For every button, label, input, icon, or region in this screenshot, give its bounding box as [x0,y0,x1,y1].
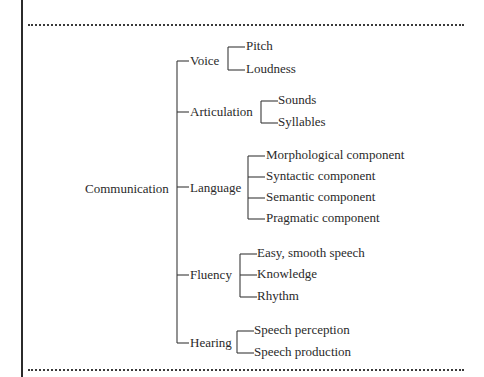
root-node-communication: Communication [85,182,169,196]
leaf-easy-smooth-speech: Easy, smooth speech [257,246,365,260]
leaf-loudness: Loudness [246,62,296,76]
leaf-morphological-component: Morphological component [266,148,404,162]
tree-connector-lines [0,0,484,377]
branch-articulation: Articulation [190,105,253,119]
leaf-speech-perception: Speech perception [254,323,350,337]
branch-voice: Voice [190,54,219,68]
leaf-syntactic-component: Syntactic component [266,169,375,183]
leaf-semantic-component: Semantic component [266,190,375,204]
leaf-pitch: Pitch [246,39,273,53]
leaf-syllables: Syllables [278,115,326,129]
leaf-sounds: Sounds [278,93,316,107]
leaf-knowledge: Knowledge [257,267,317,281]
branch-language: Language [190,181,241,195]
communication-tree-diagram: Communication Voice Pitch Loudness Artic… [0,0,484,377]
leaf-pragmatic-component: Pragmatic component [266,211,380,225]
branch-fluency: Fluency [190,268,232,282]
leaf-rhythm: Rhythm [257,289,299,303]
leaf-speech-production: Speech production [254,345,351,359]
branch-hearing: Hearing [190,336,232,350]
